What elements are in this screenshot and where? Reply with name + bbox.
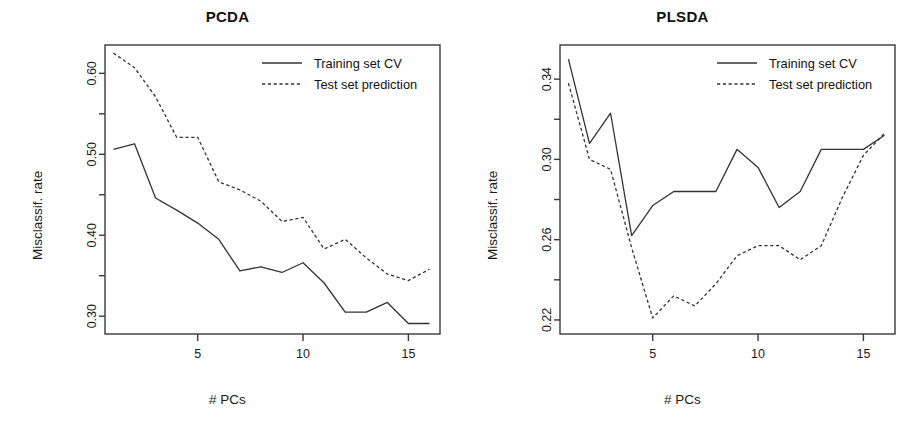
panel-plsda: PLSDA 0.220.260.300.3451015Training set … bbox=[455, 0, 910, 427]
x-tick-label: 5 bbox=[649, 347, 656, 361]
x-tick-label: 5 bbox=[194, 347, 201, 361]
x-tick-label: 15 bbox=[856, 347, 870, 361]
y-tick-label: 0.50 bbox=[85, 142, 99, 166]
y-axis-label-pcda: Misclassif. rate bbox=[30, 171, 45, 260]
y-tick-label: 0.30 bbox=[540, 147, 554, 171]
x-tick-label: 15 bbox=[401, 347, 415, 361]
y-tick-label: 0.34 bbox=[540, 67, 554, 91]
legend-label: Training set CV bbox=[314, 56, 402, 71]
series-line-dashed bbox=[568, 83, 884, 318]
legend-label: Test set prediction bbox=[314, 77, 417, 92]
y-tick-label: 0.22 bbox=[540, 308, 554, 332]
y-tick-label: 0.40 bbox=[85, 223, 99, 247]
y-tick-label: 0.30 bbox=[85, 304, 99, 328]
series-line-solid bbox=[113, 144, 429, 324]
legend-label: Training set CV bbox=[769, 56, 857, 71]
x-tick-label: 10 bbox=[296, 347, 310, 361]
y-tick-label: 0.26 bbox=[540, 227, 554, 251]
x-axis-label-plsda: # PCs bbox=[455, 392, 910, 407]
panel-pcda: PCDA 0.300.400.500.6051015Training set C… bbox=[0, 0, 455, 427]
x-tick-label: 10 bbox=[751, 347, 765, 361]
legend-label: Test set prediction bbox=[769, 77, 872, 92]
y-axis-label-plsda: Misclassif. rate bbox=[485, 171, 500, 260]
figure-container: PCDA 0.300.400.500.6051015Training set C… bbox=[0, 0, 910, 427]
y-tick-label: 0.60 bbox=[85, 61, 99, 85]
plot-area-pcda: 0.300.400.500.6051015Training set CVTest… bbox=[0, 0, 455, 427]
plot-area-plsda: 0.220.260.300.3451015Training set CVTest… bbox=[455, 0, 910, 427]
x-axis-label-pcda: # PCs bbox=[0, 392, 455, 407]
